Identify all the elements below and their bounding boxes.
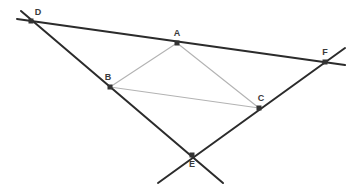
point-marker-c xyxy=(257,106,262,111)
point-label-e: E xyxy=(189,159,195,169)
point-marker-b xyxy=(108,85,113,90)
geometry-figure: ABCDEF xyxy=(0,0,359,194)
point-label-b: B xyxy=(105,72,112,82)
point-label-f: F xyxy=(322,47,328,57)
geometry-canvas: ABCDEF xyxy=(0,0,359,194)
point-marker-e xyxy=(190,153,195,158)
point-marker-a xyxy=(175,41,180,46)
point-label-c: C xyxy=(258,93,265,103)
point-label-d: D xyxy=(35,7,42,17)
point-marker-f xyxy=(323,60,328,65)
point-marker-d xyxy=(29,19,34,24)
point-label-a: A xyxy=(174,28,181,38)
